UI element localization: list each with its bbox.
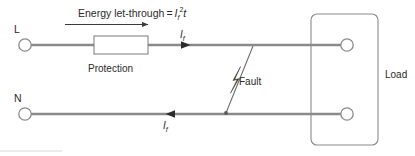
fault-current-label-live: If	[180, 29, 185, 42]
protection-device-symbol	[94, 36, 148, 54]
line-terminal-circle	[19, 39, 31, 51]
protection-label: Protection	[88, 64, 133, 74]
load-enclosure	[311, 14, 378, 145]
fault-current-label-neutral: If	[163, 120, 168, 133]
load-label: Load	[385, 70, 407, 80]
electrical-protection-diagram: Energy let-through=If2t Protection Fault…	[0, 0, 415, 156]
time-symbol-t: t	[183, 7, 186, 19]
energy-let-through-label: Energy let-through=If2t	[78, 6, 186, 21]
load-line-terminal-circle	[341, 39, 353, 51]
current-arrow-live	[181, 41, 190, 49]
line-terminal-label: L	[14, 24, 20, 35]
diagram-canvas	[0, 0, 415, 156]
energy-let-through-text: Energy let-through	[78, 7, 164, 19]
fault-node	[224, 111, 228, 115]
current-subscript-f: f	[177, 14, 179, 21]
neutral-terminal-label: N	[14, 93, 22, 104]
fault-label: Fault	[239, 77, 261, 87]
current-arrow-neutral	[166, 110, 175, 118]
neutral-terminal-circle	[19, 108, 31, 120]
equals-sign: =	[164, 7, 174, 19]
fault-current-subscript-neutral: f	[166, 126, 168, 133]
load-neutral-terminal-circle	[341, 108, 353, 120]
fault-current-subscript-live: f	[183, 35, 185, 42]
